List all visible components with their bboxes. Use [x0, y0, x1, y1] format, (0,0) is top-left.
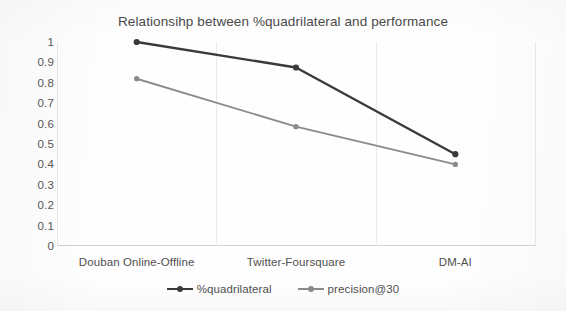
- series-layer: [0, 0, 566, 311]
- data-point-marker: [452, 151, 458, 157]
- legend-label: precision@30: [328, 283, 400, 295]
- series-line: [137, 79, 456, 165]
- legend-item[interactable]: precision@30: [298, 283, 400, 295]
- data-point-marker: [134, 76, 139, 81]
- data-point-marker: [134, 39, 140, 45]
- data-point-marker: [453, 162, 458, 167]
- chart-container: Relationsihp between %quadrilateral and …: [0, 0, 566, 311]
- chart-legend: %quadrilateralprecision@30: [0, 283, 566, 295]
- series-line: [137, 42, 456, 154]
- data-point-marker: [293, 124, 298, 129]
- legend-label: %quadrilateral: [197, 283, 272, 295]
- legend-marker-swatch: [177, 286, 183, 292]
- legend-item[interactable]: %quadrilateral: [167, 283, 272, 295]
- legend-key-icon: [167, 284, 193, 294]
- data-point-marker: [293, 64, 299, 70]
- legend-key-icon: [298, 284, 324, 294]
- series-2: [134, 76, 458, 167]
- legend-marker-swatch: [308, 286, 314, 292]
- series-1: [134, 39, 459, 157]
